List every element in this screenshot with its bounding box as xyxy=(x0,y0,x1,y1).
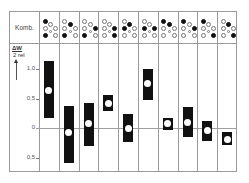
open-dot-icon xyxy=(73,26,78,31)
mean-marker xyxy=(125,125,132,132)
column-divider xyxy=(217,11,218,172)
y-tick xyxy=(36,69,39,70)
y-tick xyxy=(36,158,39,159)
y-tick-label: 0,5 xyxy=(27,95,35,101)
open-dot-icon xyxy=(221,26,226,31)
open-dot-icon xyxy=(201,26,206,31)
label-column-divider xyxy=(39,11,40,172)
open-dot-icon xyxy=(148,30,151,33)
open-dot-icon xyxy=(43,26,48,31)
open-dot-icon xyxy=(187,22,192,27)
mean-marker xyxy=(105,100,112,107)
open-dot-icon xyxy=(48,22,53,27)
open-dot-icon xyxy=(172,33,177,38)
combination-header-label: Komb. xyxy=(10,11,39,43)
open-dot-icon xyxy=(188,30,191,33)
y-tick-label: 0 xyxy=(32,124,35,130)
open-dot-icon xyxy=(88,22,93,27)
open-dot-icon xyxy=(172,26,177,31)
open-dot-icon xyxy=(221,19,226,24)
open-dot-icon xyxy=(102,33,107,38)
y-axis-label-sub: 2 rel xyxy=(12,52,25,59)
filled-dot-icon xyxy=(93,26,98,31)
open-dot-icon xyxy=(221,33,226,38)
open-dot-icon xyxy=(73,33,78,38)
filled-dot-icon xyxy=(43,19,48,24)
open-dot-icon xyxy=(53,33,58,38)
open-dot-icon xyxy=(49,30,52,33)
up-arrow-icon xyxy=(16,62,17,80)
column-divider xyxy=(158,11,159,172)
filled-dot-icon xyxy=(43,33,48,38)
open-dot-icon xyxy=(102,19,107,24)
column-divider xyxy=(178,11,179,172)
open-dot-icon xyxy=(152,33,157,38)
filled-dot-icon xyxy=(152,26,157,31)
open-dot-icon xyxy=(89,30,92,33)
open-dot-icon xyxy=(147,22,152,27)
open-dot-icon xyxy=(168,30,171,33)
column-divider xyxy=(197,11,198,172)
open-dot-icon xyxy=(192,33,197,38)
column-divider xyxy=(118,11,119,172)
filled-dot-icon xyxy=(201,19,206,24)
open-dot-icon xyxy=(122,33,127,38)
y-axis-label-main: ΔW xyxy=(12,45,25,52)
column-divider xyxy=(138,11,139,172)
header-divider xyxy=(9,43,237,44)
open-dot-icon xyxy=(122,19,127,24)
filled-dot-icon xyxy=(68,22,73,27)
filled-dot-icon xyxy=(142,26,147,31)
column-divider xyxy=(98,11,99,172)
y-tick xyxy=(36,99,39,100)
column-divider xyxy=(79,11,80,172)
open-dot-icon xyxy=(201,33,206,38)
open-dot-icon xyxy=(102,26,107,31)
open-dot-icon xyxy=(53,26,58,31)
filled-dot-icon xyxy=(192,26,197,31)
filled-dot-icon xyxy=(122,26,127,31)
y-axis-label: ΔW 2 rel xyxy=(12,45,25,59)
open-dot-icon xyxy=(69,30,72,33)
y-tick-label: 1,0 xyxy=(27,65,35,71)
mean-marker xyxy=(184,119,191,126)
y-tick-label: 0,5 xyxy=(27,154,35,160)
mean-marker xyxy=(224,136,231,143)
open-dot-icon xyxy=(93,33,98,38)
column-divider xyxy=(59,11,60,172)
open-dot-icon xyxy=(142,19,147,24)
filled-dot-icon xyxy=(167,22,172,27)
open-dot-icon xyxy=(142,33,147,38)
